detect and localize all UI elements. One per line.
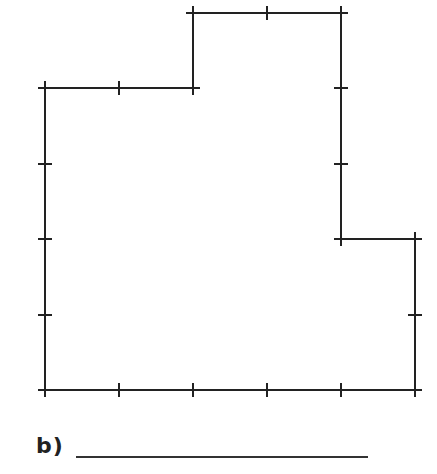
shape-outline bbox=[45, 13, 415, 390]
question-label: b) bbox=[36, 433, 64, 458]
answer-row: b) bbox=[36, 430, 368, 458]
answer-blank-line[interactable] bbox=[76, 430, 368, 458]
rectilinear-shape-diagram bbox=[0, 0, 437, 420]
tick-marks bbox=[38, 6, 422, 397]
